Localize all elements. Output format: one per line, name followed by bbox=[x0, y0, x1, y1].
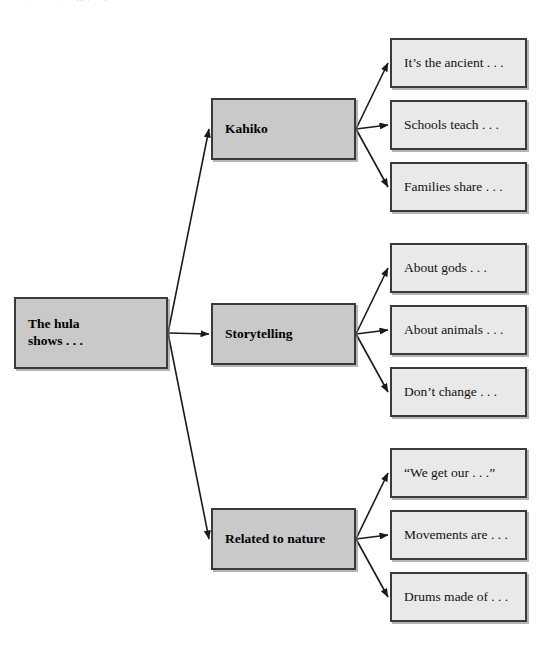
node-branch-nature[interactable]: Related to nature bbox=[211, 508, 356, 570]
node-branch-kahiko-label: Kahiko bbox=[225, 121, 268, 138]
node-leaf-dontchange-label: Don’t change . . . bbox=[404, 384, 497, 401]
connector-kahiko-to-ancient bbox=[356, 63, 388, 129]
node-leaf-schools-label: Schools teach . . . bbox=[404, 117, 499, 134]
node-leaf-ancient[interactable]: It’s the ancient . . . bbox=[390, 38, 527, 88]
connector-storytelling-to-gods bbox=[356, 268, 388, 334]
header-fragment-text: Literature, worksheets, reading graphic … bbox=[4, 0, 122, 1]
node-leaf-wegetour-label: “We get our . . .” bbox=[404, 465, 495, 482]
connector-storytelling-to-dontchange bbox=[356, 334, 388, 392]
connector-storytelling-to-animals bbox=[356, 330, 388, 334]
node-leaf-ancient-label: It’s the ancient . . . bbox=[404, 55, 504, 72]
node-leaf-movements-label: Movements are . . . bbox=[404, 527, 508, 544]
node-leaf-animals-label: About animals . . . bbox=[404, 322, 503, 339]
node-branch-storytelling[interactable]: Storytelling bbox=[211, 303, 356, 365]
node-leaf-gods[interactable]: About gods . . . bbox=[390, 243, 527, 293]
node-leaf-gods-label: About gods . . . bbox=[404, 260, 487, 277]
node-leaf-movements[interactable]: Movements are . . . bbox=[390, 510, 527, 560]
connector-root-to-storytelling bbox=[168, 333, 209, 334]
node-leaf-families[interactable]: Families share . . . bbox=[390, 162, 527, 212]
node-root-label: The hula shows . . . bbox=[28, 316, 83, 350]
node-leaf-animals[interactable]: About animals . . . bbox=[390, 305, 527, 355]
page-header-strip: Literature, worksheets, reading graphic … bbox=[0, 0, 560, 7]
connector-nature-to-movements bbox=[356, 535, 388, 539]
node-leaf-drums-label: Drums made of . . . bbox=[404, 589, 508, 606]
node-leaf-drums[interactable]: Drums made of . . . bbox=[390, 572, 527, 622]
connector-nature-to-wegetour bbox=[356, 473, 388, 539]
diagram-canvas: Literature, worksheets, reading graphic … bbox=[0, 0, 560, 652]
node-branch-kahiko[interactable]: Kahiko bbox=[211, 98, 356, 160]
connector-nature-to-drums bbox=[356, 539, 388, 597]
node-leaf-wegetour[interactable]: “We get our . . .” bbox=[390, 448, 527, 498]
connector-kahiko-to-schools bbox=[356, 125, 388, 129]
connector-root-to-nature bbox=[168, 333, 209, 539]
node-leaf-schools[interactable]: Schools teach . . . bbox=[390, 100, 527, 150]
node-root[interactable]: The hula shows . . . bbox=[14, 297, 168, 369]
node-leaf-families-label: Families share . . . bbox=[404, 179, 503, 196]
node-branch-nature-label: Related to nature bbox=[225, 531, 325, 548]
connector-kahiko-to-families bbox=[356, 129, 388, 187]
node-leaf-dontchange[interactable]: Don’t change . . . bbox=[390, 367, 527, 417]
connector-root-to-kahiko bbox=[168, 129, 209, 333]
node-branch-storytelling-label: Storytelling bbox=[225, 326, 293, 343]
